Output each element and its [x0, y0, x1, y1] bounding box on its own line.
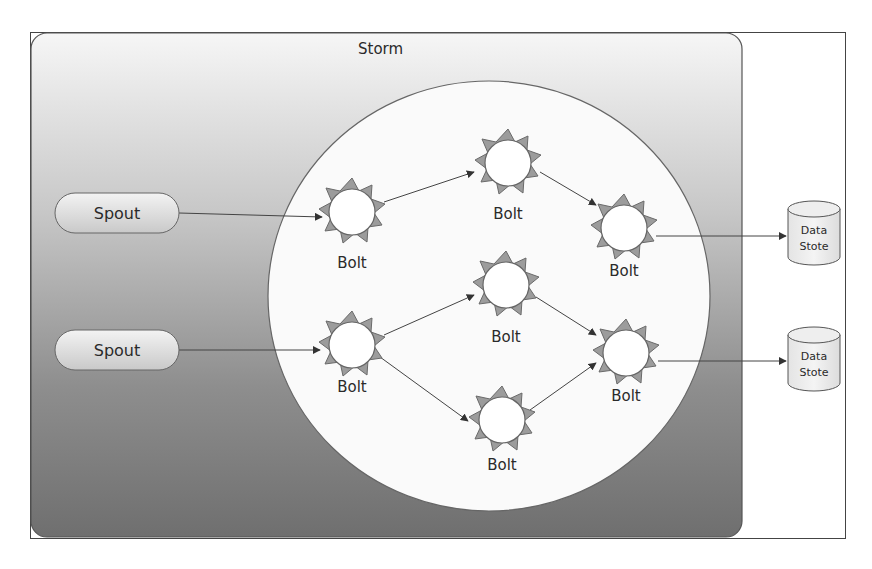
- svg-text:Bolt: Bolt: [609, 262, 639, 280]
- svg-text:Data: Data: [801, 350, 827, 363]
- svg-text:Stote: Stote: [799, 366, 828, 379]
- svg-text:Data: Data: [801, 224, 827, 237]
- svg-text:Bolt: Bolt: [493, 205, 523, 223]
- spout-label: Spout: [94, 341, 141, 360]
- svg-text:Spout: Spout: [94, 341, 141, 360]
- storm-topology-diagram: Storm Spout Spout Bolt Bolt Bolt Bolt: [0, 0, 872, 569]
- spout-label: Spout: [94, 204, 141, 223]
- spout-node[interactable]: Spout: [55, 330, 179, 370]
- svg-text:Bolt: Bolt: [487, 456, 517, 474]
- data-store-node[interactable]: Data Stote: [788, 327, 840, 391]
- storm-title: Storm: [358, 40, 403, 58]
- svg-text:Bolt: Bolt: [491, 328, 521, 346]
- svg-text:Stote: Stote: [799, 240, 828, 253]
- svg-text:Spout: Spout: [94, 204, 141, 223]
- svg-text:Bolt: Bolt: [611, 387, 641, 405]
- svg-text:Bolt: Bolt: [337, 378, 367, 396]
- spout-node[interactable]: Spout: [55, 193, 179, 233]
- data-store-node[interactable]: Data Stote: [788, 201, 840, 265]
- svg-text:Bolt: Bolt: [337, 254, 367, 272]
